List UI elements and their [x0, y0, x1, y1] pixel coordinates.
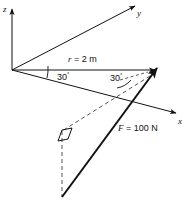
- angle-r-unit: °: [67, 71, 69, 77]
- angle-F-from-r-label: 30°: [110, 72, 122, 83]
- right-angle-parallelogram-marker: [58, 128, 72, 141]
- figure-canvas: [0, 0, 196, 204]
- z-axis-label: z: [3, 5, 7, 14]
- y-axis-label: y: [137, 9, 141, 18]
- angle-F-value: 30: [110, 73, 120, 83]
- position-vector-expression: = 2 m: [72, 54, 97, 64]
- mechanics-vector-diagram: z y x r = 2 m F = 100 N 30° 30°: [0, 0, 196, 204]
- angle-F-unit: °: [120, 72, 122, 78]
- x-axis-label: x: [178, 117, 182, 126]
- angle-leader-dashed-line: [120, 72, 148, 80]
- force-vector-F-label: F = 100 N: [118, 124, 158, 133]
- arc-30-deg-origin: [47, 66, 48, 78]
- position-vector-r-label: r = 2 m: [68, 55, 97, 64]
- force-vector-expression: = 100 N: [124, 123, 158, 133]
- angle-r-from-x-axis-label: 30°: [57, 71, 69, 82]
- angle-r-value: 30: [57, 72, 67, 82]
